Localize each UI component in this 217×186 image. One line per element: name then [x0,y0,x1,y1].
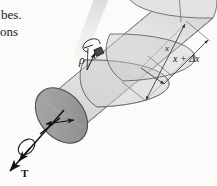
caption-fragment-line-2: ons [0,25,18,38]
torque-vector [10,110,64,171]
label-axial-station-x: x [165,44,169,53]
shaft-illustration [0,0,217,186]
caption-fragment-line-1: bes. [1,8,22,21]
label-radial-position-rho: ρ [79,54,85,66]
torsion-shaft-figure: bes. ons ρ c T x x + Δx [0,0,217,186]
label-torque-t: T [21,168,28,179]
label-axial-station-x-plus-delta-x: x + Δx [173,54,200,64]
label-outer-radius-c: c [48,119,52,128]
